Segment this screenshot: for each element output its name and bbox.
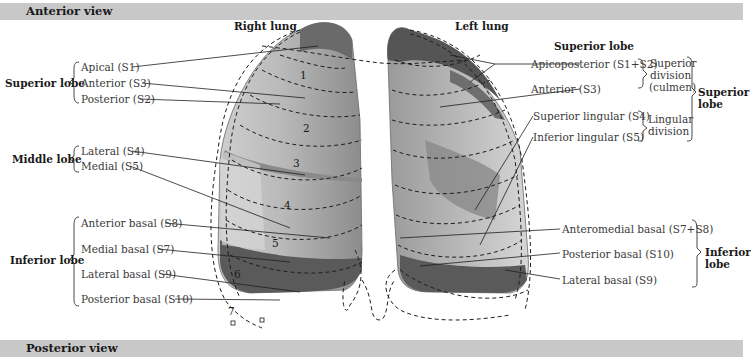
left-lung-title: Left lung — [455, 20, 509, 32]
label-anterior-s3-left: Anterior (S3) — [531, 83, 601, 95]
left-superior-lobe-line1: Superior — [698, 86, 749, 98]
label-lateral-s4: Lateral (S4) — [81, 145, 145, 157]
label-apical-s1: Apical (S1) — [81, 61, 140, 73]
superior-division-line1: Superior — [650, 57, 697, 69]
label-apicoposterior-s1-s2: Apicoposterior (S1+S2) — [531, 58, 658, 70]
left-lung-shape — [387, 28, 528, 293]
segment-number-7: 7 — [228, 305, 235, 317]
lingular-division-line1: Lingular — [648, 113, 693, 125]
segment-number-3: 3 — [293, 157, 300, 169]
right-lung-shape — [218, 23, 362, 293]
segment-number-6: 6 — [234, 268, 241, 280]
segment-number-2: 2 — [303, 122, 310, 134]
label-posterior-basal-s10: Posterior basal (S10) — [81, 293, 193, 305]
posterior-view-header: Posterior view — [0, 340, 743, 357]
label-medial-basal-s7: Medial basal (S7) — [81, 243, 174, 255]
left-inferior-lobe-line2: lobe — [705, 258, 730, 270]
label-anteromedial-basal-s7-s8: Anteromedial basal (S7+S8) — [562, 223, 713, 235]
lingular-division-line2: division — [648, 125, 689, 137]
left-superior-lobe-line2: lobe — [698, 98, 723, 110]
superior-division-line2: division — [650, 69, 691, 81]
label-inferior-lingular-s5: Inferior lingular (S5) — [533, 131, 644, 143]
left-superior-lobe-heading: Superior lobe — [554, 40, 634, 52]
segment-number-1: 1 — [300, 69, 307, 81]
right-lung-title: Right lung — [234, 20, 297, 32]
label-lateral-basal-s9-left: Lateral basal (S9) — [562, 274, 657, 286]
right-superior-lobe-label: Superior lobe — [5, 77, 85, 89]
label-anterior-s3: Anterior (S3) — [81, 77, 151, 89]
right-inferior-lobe-label: Inferior lobe — [10, 254, 84, 266]
label-posterior-s2: Posterior (S2) — [81, 93, 155, 105]
left-inferior-lobe-line1: Inferior — [705, 246, 751, 258]
posterior-view-title: Posterior view — [26, 341, 118, 355]
right-middle-lobe-label: Middle lobe — [12, 153, 82, 165]
label-superior-lingular-s4: Superior lingular (S4) — [533, 110, 650, 122]
superior-division-line3: (culmen) — [649, 81, 696, 93]
label-posterior-basal-s10-left: Posterior basal (S10) — [562, 248, 674, 260]
segment-number-4: 4 — [284, 199, 291, 211]
segment-number-5: 5 — [272, 237, 279, 249]
label-anterior-basal-s8: Anterior basal (S8) — [81, 217, 182, 229]
label-lateral-basal-s9: Lateral basal (S9) — [81, 268, 176, 280]
label-medial-s5: Medial (S5) — [81, 160, 143, 172]
